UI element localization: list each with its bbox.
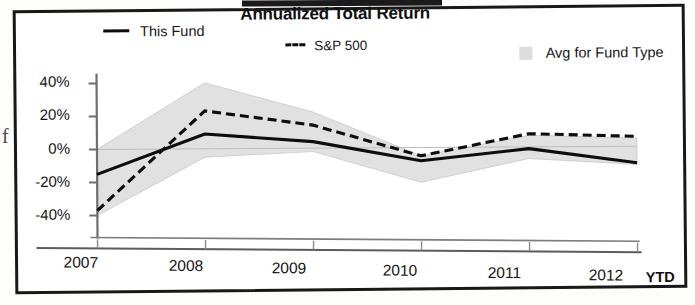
y-axis-line bbox=[97, 74, 98, 239]
plot-area bbox=[0, 0, 695, 305]
x-axis-inner-line bbox=[91, 234, 640, 244]
chart-figure: Annualized Total Return This Fund S&P 50… bbox=[0, 0, 695, 305]
x-axis-line bbox=[37, 244, 642, 256]
scanned-page: f Annualized Total Return This Fund S&P … bbox=[0, 0, 695, 305]
